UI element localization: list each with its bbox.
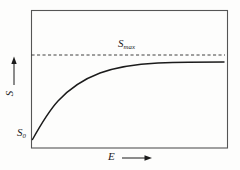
saturation-curve [33, 62, 225, 140]
saturation-curve-figure: Smax S0 E S [0, 0, 240, 170]
origin-label-subscript: 0 [23, 132, 27, 139]
origin-label-base: S [17, 126, 23, 138]
y-axis-label: S [4, 91, 15, 97]
plot-canvas [0, 0, 240, 170]
y-axis-arrow-icon [11, 57, 16, 86]
asymptote-label-smax: Smax [118, 38, 135, 49]
plot-frame [32, 11, 228, 149]
origin-label-s0: S0 [17, 127, 26, 138]
x-axis-label: E [108, 151, 115, 162]
asymptote-label-base: S [118, 37, 124, 49]
x-axis-arrow-icon [122, 155, 152, 160]
asymptote-label-subscript: max [124, 43, 136, 50]
